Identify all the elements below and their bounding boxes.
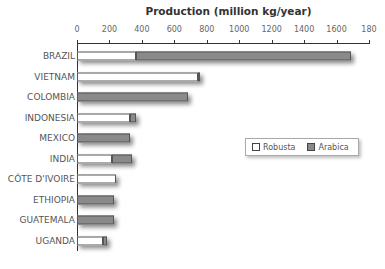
x-tick-label: 1600 bbox=[326, 25, 346, 34]
bar bbox=[77, 236, 107, 245]
bar bbox=[77, 154, 132, 163]
x-tick-label: 200 bbox=[102, 25, 117, 34]
arabica-segment bbox=[77, 134, 130, 143]
x-tick-label: 1200 bbox=[261, 25, 281, 34]
legend-robusta: Robusta bbox=[263, 143, 295, 152]
bar bbox=[77, 216, 114, 225]
x-tick-label: 180 bbox=[361, 25, 376, 34]
category-label: VIETNAM bbox=[34, 72, 75, 82]
arabica-segment bbox=[77, 93, 188, 102]
category-label: GUATEMALA bbox=[19, 215, 75, 225]
robusta-segment bbox=[77, 236, 103, 245]
bar bbox=[77, 52, 351, 61]
legend-arabica: Arabica bbox=[318, 143, 348, 152]
chart-title: Production (million kg/year) bbox=[0, 5, 385, 17]
robusta-segment bbox=[77, 72, 198, 81]
robusta-segment bbox=[77, 113, 130, 122]
category-label: UGANDA bbox=[36, 236, 75, 246]
category-label: ETHIOPIA bbox=[33, 195, 75, 205]
category-label: BRAZIL bbox=[43, 51, 75, 61]
arabica-segment bbox=[136, 52, 351, 61]
x-tick-label: 600 bbox=[167, 25, 182, 34]
arabica-swatch bbox=[307, 143, 315, 151]
category-label: COLOMBIA bbox=[27, 92, 75, 102]
arabica-segment bbox=[112, 154, 132, 163]
arabica-segment bbox=[77, 195, 114, 204]
category-label: CÔTE D'IVOIRE bbox=[8, 174, 75, 184]
x-tick-label: 400 bbox=[134, 25, 149, 34]
bar bbox=[77, 93, 188, 102]
category-label: INDONESIA bbox=[25, 113, 75, 123]
bar bbox=[77, 113, 136, 122]
x-tick-label: 0 bbox=[74, 25, 79, 34]
x-tick-label: 1400 bbox=[294, 25, 314, 34]
robusta-segment bbox=[77, 175, 116, 184]
legend: Robusta Arabica bbox=[245, 138, 359, 156]
arabica-segment bbox=[103, 236, 107, 245]
bar bbox=[77, 175, 116, 184]
bar bbox=[77, 134, 130, 143]
category-label: MEXICO bbox=[39, 133, 75, 143]
category-label: INDIA bbox=[50, 154, 75, 164]
arabica-segment bbox=[198, 72, 200, 81]
x-tick bbox=[369, 40, 370, 44]
x-tick-label: 800 bbox=[199, 25, 214, 34]
robusta-segment bbox=[77, 154, 112, 163]
x-axis-line bbox=[77, 43, 369, 44]
bar bbox=[77, 72, 200, 81]
x-tick-label: 1000 bbox=[229, 25, 249, 34]
arabica-segment bbox=[130, 113, 136, 122]
bar bbox=[77, 195, 114, 204]
robusta-swatch bbox=[252, 143, 260, 151]
arabica-segment bbox=[77, 216, 114, 225]
robusta-segment bbox=[77, 52, 136, 61]
